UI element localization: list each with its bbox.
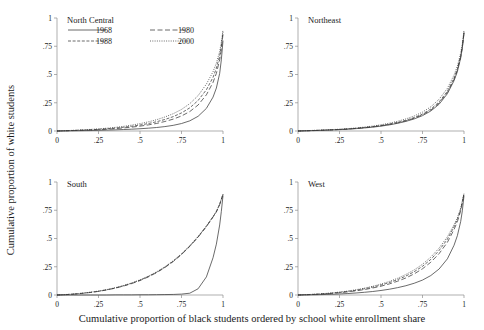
- chart-svg: 0.25.5.7510.25.5.751North Central0.25.5.…: [0, 0, 484, 330]
- y-tick-label: 1: [48, 178, 52, 187]
- y-tick-label: .75: [284, 42, 294, 51]
- x-tick-label: .25: [335, 136, 345, 145]
- y-tick-label: .5: [46, 70, 52, 79]
- y-tick-label: 0: [48, 127, 52, 136]
- x-tick-label: .25: [94, 136, 104, 145]
- legend-label-2000: 2000: [178, 37, 194, 46]
- y-tick-label: .25: [284, 99, 294, 108]
- curve-1980: [298, 33, 464, 131]
- curve-1968: [298, 196, 464, 295]
- x-tick-label: 1: [462, 136, 466, 145]
- x-tick-label: .75: [418, 300, 428, 309]
- panel-title: South: [67, 179, 88, 189]
- y-axis-title: Cumulative proportion of white students: [5, 85, 16, 255]
- y-tick-label: 1: [289, 178, 293, 187]
- y-tick-label: .75: [284, 206, 294, 215]
- x-axis-title: Cumulative proportion of black students …: [79, 313, 426, 324]
- x-tick-label: .5: [378, 136, 384, 145]
- x-tick-label: 0: [55, 300, 59, 309]
- y-tick-label: 1: [48, 14, 52, 23]
- y-tick-label: .25: [284, 263, 294, 272]
- x-tick-label: .5: [137, 300, 143, 309]
- x-tick-label: .25: [94, 300, 104, 309]
- panels-group: 0.25.5.7510.25.5.751North Central0.25.5.…: [43, 14, 467, 309]
- legend: 1968198019882000: [68, 26, 194, 46]
- y-tick-label: 0: [48, 291, 52, 300]
- curve-1968: [57, 41, 223, 131]
- x-tick-label: 1: [221, 136, 225, 145]
- curve-1968: [298, 33, 464, 131]
- y-tick-label: .25: [43, 263, 53, 272]
- x-tick-label: 1: [221, 300, 225, 309]
- x-tick-label: 0: [296, 300, 300, 309]
- curve-1988: [57, 194, 223, 295]
- curve-1988: [298, 32, 464, 131]
- y-tick-label: .75: [43, 42, 53, 51]
- y-tick-label: 1: [289, 14, 293, 23]
- legend-label-1988: 1988: [96, 37, 112, 46]
- x-tick-label: 1: [462, 300, 466, 309]
- panel-northeast: 0.25.5.7510.25.5.751Northeast: [284, 14, 467, 145]
- legend-label-1980: 1980: [178, 26, 194, 35]
- panel-title: West: [308, 179, 325, 189]
- curve-1988: [298, 194, 464, 295]
- panel-title: Northeast: [308, 15, 342, 25]
- legend-label-1968: 1968: [96, 26, 112, 35]
- x-tick-label: .75: [177, 136, 187, 145]
- y-tick-label: .5: [46, 234, 52, 243]
- y-tick-label: .25: [43, 99, 53, 108]
- y-tick-label: .5: [287, 234, 293, 243]
- figure-container: 0.25.5.7510.25.5.751North Central0.25.5.…: [0, 0, 484, 330]
- x-tick-label: .75: [177, 300, 187, 309]
- y-tick-label: 0: [289, 291, 293, 300]
- panel-north-central: 0.25.5.7510.25.5.751North Central: [43, 14, 226, 145]
- y-tick-label: 0: [289, 127, 293, 136]
- y-tick-label: .5: [287, 70, 293, 79]
- panel-title: North Central: [67, 15, 115, 25]
- panel-south: 0.25.5.7510.25.5.751South: [43, 178, 226, 309]
- x-tick-label: .75: [418, 136, 428, 145]
- x-tick-label: .5: [137, 136, 143, 145]
- curve-1980: [298, 194, 464, 295]
- x-tick-label: 0: [296, 136, 300, 145]
- y-tick-label: .75: [43, 206, 53, 215]
- curve-2000: [298, 193, 464, 295]
- x-tick-label: 0: [55, 136, 59, 145]
- x-tick-label: .5: [378, 300, 384, 309]
- panel-west: 0.25.5.7510.25.5.751West: [284, 178, 467, 309]
- x-tick-label: .25: [335, 300, 345, 309]
- curve-2000: [298, 30, 464, 131]
